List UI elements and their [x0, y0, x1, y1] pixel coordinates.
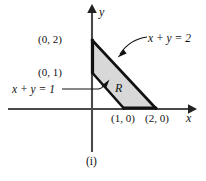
- point-label-2-0: (2, 0): [145, 113, 169, 124]
- figure-container: (0, 2) (0, 1) (1, 0) (2, 0) x + y = 2 x …: [0, 0, 206, 181]
- point-label-1-0: (1, 0): [111, 113, 135, 124]
- y-axis-label: y: [99, 6, 104, 18]
- figure-caption: (i): [86, 156, 97, 168]
- equation-label-upper: x + y = 2: [148, 33, 191, 45]
- region-label: R: [115, 82, 122, 94]
- point-label-0-1: (0, 1): [38, 67, 62, 78]
- equation-label-lower: x + y = 1: [12, 84, 55, 96]
- x-axis-label: x: [186, 112, 191, 124]
- leader-upper-line: [118, 37, 148, 58]
- point-label-0-2: (0, 2): [38, 34, 62, 45]
